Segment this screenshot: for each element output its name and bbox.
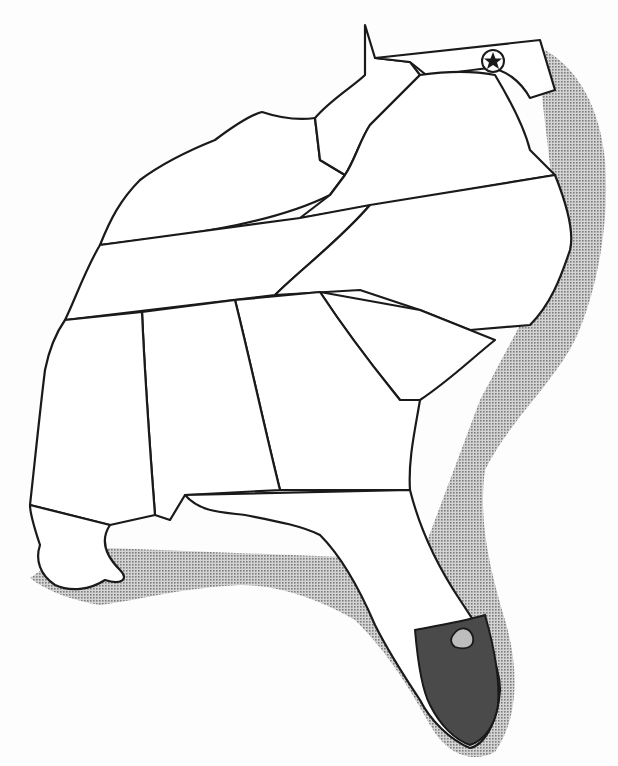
capital-star-icon xyxy=(482,50,504,72)
range-map xyxy=(0,0,618,766)
state-mississippi xyxy=(30,312,155,525)
